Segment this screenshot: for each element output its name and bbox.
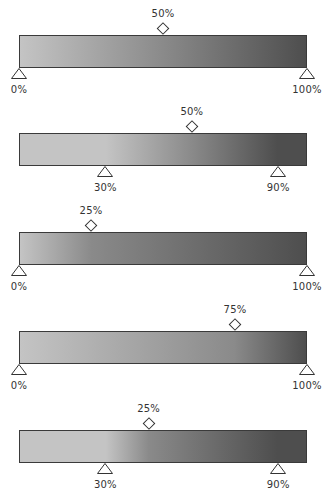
midpoint-label: 25%: [137, 403, 160, 414]
color-stop-label: 30%: [94, 479, 117, 490]
gradient-bar: [19, 430, 307, 463]
gradient-example: 25% 30%90%: [0, 0, 334, 498]
color-stop-label: 90%: [267, 479, 290, 490]
midpoint-diamond-icon[interactable]: [142, 417, 155, 430]
